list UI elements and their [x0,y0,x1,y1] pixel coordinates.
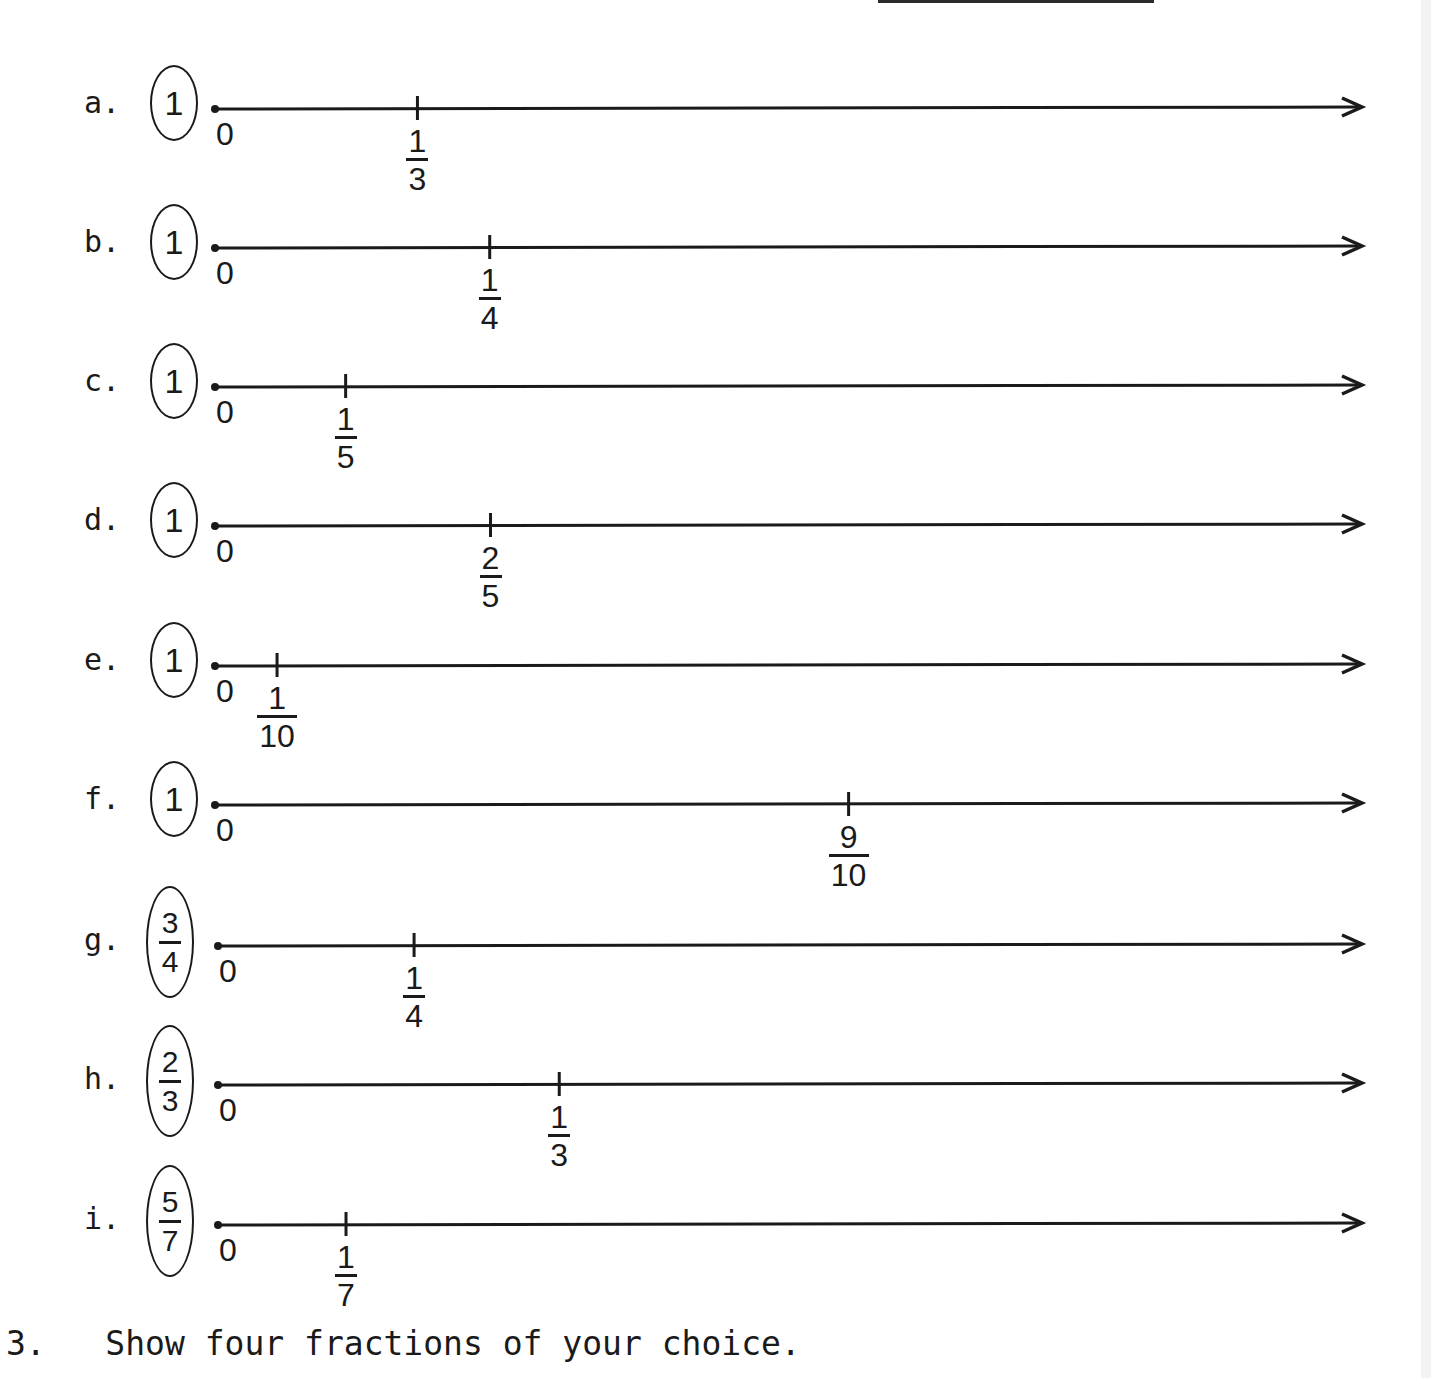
fraction-bar [159,941,181,944]
unit-numerator: 3 [162,908,179,938]
number-line [218,1223,1358,1225]
origin-point [214,942,222,950]
problem-label: a. [84,88,120,118]
tick-fraction-label: 14 [403,963,425,1031]
unit-circle: 1 [150,65,198,141]
unit-numerator: 5 [162,1187,179,1217]
zero-label: 0 [219,955,237,987]
number-line [215,524,1358,526]
unit-circle: 1 [150,482,198,558]
unit-denominator: 7 [162,1226,179,1256]
number-lines-canvas [0,0,1431,1378]
tick-numerator: 1 [337,1242,355,1272]
problem-label: i. [84,1204,120,1234]
tick-denominator: 3 [550,1140,568,1170]
tick-denominator: 5 [337,442,355,472]
origin-point [214,1081,222,1089]
unit-circle: 1 [150,761,198,837]
question-text: Show four fractions of your choice. [105,1324,800,1363]
tick-fraction-label: 25 [480,543,502,611]
origin-point [211,662,219,670]
tick-numerator: 1 [268,683,286,713]
unit-circle: 57 [146,1165,194,1277]
unit-denominator: 4 [162,947,179,977]
zero-label: 0 [216,814,234,846]
zero-label: 0 [219,1234,237,1266]
zero-label: 0 [216,535,234,567]
tick-fraction-label: 910 [829,822,869,890]
origin-point [211,105,219,113]
tick-numerator: 2 [482,543,500,573]
tick-fraction-label: 110 [257,683,297,751]
number-line [215,107,1358,109]
unit-circle: 1 [150,622,198,698]
unit-numerator: 1 [165,780,184,819]
zero-label: 0 [216,675,234,707]
unit-numerator: 1 [165,641,184,680]
tick-fraction-label: 13 [406,126,428,194]
tick-denominator: 5 [482,581,500,611]
tick-denominator: 10 [831,860,867,890]
problem-label: d. [84,505,120,535]
problem-label: e. [84,645,120,675]
fraction-bar [159,1080,181,1083]
tick-denominator: 7 [337,1280,355,1310]
tick-numerator: 1 [337,404,355,434]
tick-denominator: 4 [405,1001,423,1031]
number-line [215,385,1358,387]
origin-point [211,383,219,391]
problem-label: g. [84,925,120,955]
tick-numerator: 1 [409,126,427,156]
tick-fraction-label: 14 [479,265,501,333]
number-line [215,664,1358,666]
origin-point [211,522,219,530]
unit-circle: 34 [146,886,194,998]
tick-fraction-label: 13 [548,1102,570,1170]
tick-denominator: 10 [259,721,295,751]
origin-point [211,801,219,809]
tick-denominator: 4 [481,303,499,333]
unit-numerator: 1 [165,362,184,401]
number-line [215,803,1358,805]
question-number: 3. [6,1324,46,1363]
unit-numerator: 2 [162,1047,179,1077]
number-line [215,246,1358,248]
tick-numerator: 1 [405,963,423,993]
unit-numerator: 1 [165,501,184,540]
fraction-bar [159,1220,181,1223]
zero-label: 0 [219,1094,237,1126]
unit-denominator: 3 [162,1086,179,1116]
problem-label: c. [84,366,120,396]
zero-label: 0 [216,118,234,150]
number-line [218,944,1358,946]
zero-label: 0 [216,257,234,289]
tick-fraction-label: 15 [335,404,357,472]
number-line [218,1083,1358,1085]
tick-numerator: 1 [481,265,499,295]
tick-denominator: 3 [409,164,427,194]
unit-circle: 23 [146,1025,194,1137]
tick-fraction-label: 17 [335,1242,357,1310]
tick-numerator: 9 [840,822,858,852]
problem-label: b. [84,227,120,257]
unit-circle: 1 [150,343,198,419]
unit-numerator: 1 [165,223,184,262]
problem-label: f. [84,784,120,814]
origin-point [211,244,219,252]
question-3: 3. Show four fractions of your choice. [6,1326,801,1362]
problem-label: h. [84,1064,120,1094]
origin-point [214,1221,222,1229]
tick-numerator: 1 [550,1102,568,1132]
unit-numerator: 1 [165,84,184,123]
zero-label: 0 [216,396,234,428]
unit-circle: 1 [150,204,198,280]
